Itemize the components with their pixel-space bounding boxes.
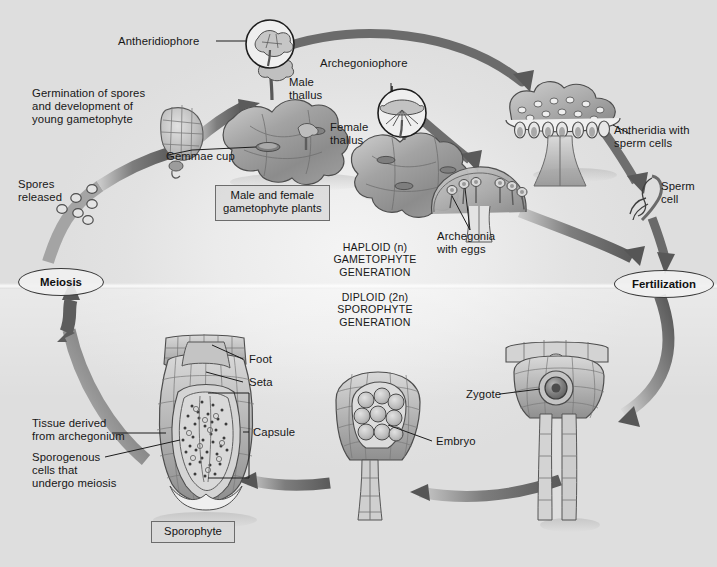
- callout-spores-released: Spores released: [18, 178, 62, 204]
- arrow-embryo-to-sporophyte: [238, 472, 330, 489]
- meiosis-node[interactable]: Meiosis: [18, 268, 104, 296]
- gametophyte-plants-box: Male and female gametophyte plants: [215, 185, 330, 221]
- callout-seta: Seta: [249, 376, 273, 389]
- callout-archegoniophore: Archegoniophore: [320, 57, 408, 70]
- callout-antheridiophore: Antheridiophore: [118, 35, 199, 48]
- antheridiophore-inset: [246, 20, 294, 68]
- diploid-generation-label: DIPLOID (2n) SPOROPHYTE GENERATION: [303, 291, 447, 328]
- young-gametophyte: [161, 105, 203, 178]
- archegoniophore-inset: [378, 89, 426, 138]
- callout-male-thallus: Male thallus: [289, 76, 322, 102]
- callout-germination: Germination of spores and development of…: [32, 87, 145, 127]
- sporophyte-figure: [157, 334, 255, 510]
- arrow-fertilization-to-zygote: [618, 296, 668, 427]
- sporophyte-box: Sporophyte: [151, 521, 235, 543]
- callout-sporogenous-cells: Sporogenous cells that undergo meiosis: [32, 451, 116, 491]
- callout-female-thallus: Female thallus: [330, 121, 368, 147]
- callout-tissue-from-archegonium: Tissue derived from archegonium: [32, 417, 125, 443]
- callout-embryo: Embryo: [436, 435, 476, 448]
- callout-zygote: Zygote: [466, 388, 501, 401]
- embryo-figure: [336, 372, 420, 520]
- callout-gemmae-cup: Gemmae cup: [166, 150, 235, 163]
- callout-antheridia: Antheridia with sperm cells: [614, 124, 690, 150]
- arrow-zygote-to-embryo: [410, 480, 560, 501]
- arrow-sperm-to-fertilization: [652, 218, 675, 274]
- life-cycle-diagram: Antheridiophore Archegoniophore Germinat…: [0, 0, 717, 567]
- callout-capsule: Capsule: [253, 426, 295, 439]
- callout-sperm-cell: Sperm cell: [661, 180, 695, 206]
- fertilization-node[interactable]: Fertilization: [614, 270, 714, 298]
- arrow-archegonia-to-fertilization: [520, 212, 645, 266]
- callout-foot: Foot: [249, 353, 272, 366]
- haploid-generation-label: HAPLOID (n) GAMETOPHYTE GENERATION: [303, 241, 447, 278]
